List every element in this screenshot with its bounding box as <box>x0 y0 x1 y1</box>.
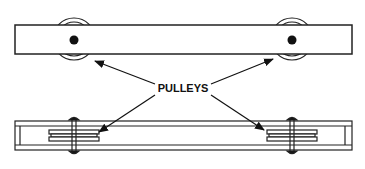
side-view <box>15 118 352 154</box>
pulley-diagram: PULLEYS <box>0 0 365 169</box>
axle-dot-left <box>70 36 79 45</box>
arrow-top-left <box>95 61 155 84</box>
axle-dot-right <box>288 36 297 45</box>
arrow-bottom-right <box>211 95 264 130</box>
arrow-top-right <box>211 59 273 84</box>
pulley-side-left <box>49 118 99 154</box>
pulley-side-right <box>267 118 317 154</box>
top-bar <box>15 25 352 54</box>
pulleys-label: PULLEYS <box>158 82 209 94</box>
top-view <box>15 18 352 60</box>
